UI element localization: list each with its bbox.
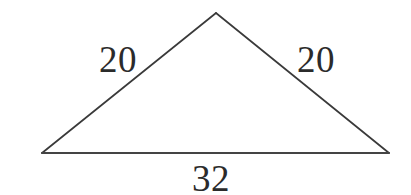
geometry-figure: 20 20 32	[0, 0, 411, 195]
base-length-label: 32	[192, 160, 230, 195]
left-side-length-label: 20	[99, 41, 137, 78]
right-side-length-label: 20	[297, 41, 335, 78]
